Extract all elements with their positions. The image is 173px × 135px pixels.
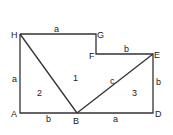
segment-hb xyxy=(20,34,77,113)
edge-label-ab: b xyxy=(46,114,51,124)
region-1: 1 xyxy=(73,73,78,83)
edge-label-ed: b xyxy=(156,77,161,87)
vertex-g: G xyxy=(97,30,104,40)
edge-label-hg: a xyxy=(54,24,59,34)
vertex-a: A xyxy=(11,109,17,119)
region-3: 3 xyxy=(132,88,137,98)
outline xyxy=(20,34,153,113)
edge-label-be: c xyxy=(110,76,115,86)
vertex-e: E xyxy=(154,50,160,60)
segment-be xyxy=(77,54,153,113)
region-2: 2 xyxy=(37,88,42,98)
vertex-d: D xyxy=(155,109,162,119)
geometry-diagram: H G F E D B A a b b a b a c 1 2 3 xyxy=(0,0,173,135)
edge-label-ha: a xyxy=(12,74,17,84)
vertex-h: H xyxy=(11,30,18,40)
vertex-f: F xyxy=(89,51,95,61)
edge-label-fe: b xyxy=(124,44,129,54)
edge-label-bd: a xyxy=(113,114,118,124)
vertex-b: B xyxy=(73,116,79,126)
